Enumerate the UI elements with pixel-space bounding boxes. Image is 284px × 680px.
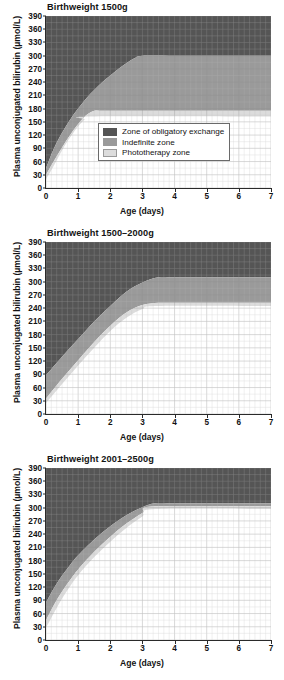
y-tick-mark (43, 494, 47, 495)
y-tick-label: 210 (28, 91, 42, 100)
x-tick-label: 3 (140, 192, 145, 201)
legend-1: Zone of obligatory exchange Indefinite z… (98, 123, 230, 161)
x-tick-label: 6 (237, 192, 242, 201)
y-tick-mark (43, 534, 47, 535)
y-tick-label: 60 (33, 157, 42, 166)
x-tick-mark (175, 640, 176, 644)
x-tick-mark (271, 640, 272, 644)
y-axis-label-2: Plasma unconjugated bilirubin (µmol/L) (12, 243, 22, 403)
legend-swatch-phototherapy-icon (103, 149, 117, 157)
x-tick-label: 4 (172, 644, 177, 653)
y-tick-label: 330 (28, 38, 42, 47)
x-tick-label: 1 (76, 644, 81, 653)
x-tick-label: 3 (140, 644, 145, 653)
y-tick-label: 30 (33, 396, 42, 405)
x-tick-label: 0 (44, 418, 49, 427)
y-tick-mark (43, 400, 47, 401)
y-tick-label: 240 (28, 530, 42, 539)
zones-svg-1 (46, 16, 271, 188)
legend-label-exchange: Zone of obligatory exchange (122, 127, 224, 136)
y-tick-mark (43, 520, 47, 521)
y-tick-mark (43, 42, 47, 43)
y-tick-mark (43, 268, 47, 269)
y-tick-mark (43, 82, 47, 83)
plot-canvas-2 (46, 242, 271, 414)
y-tick-mark (43, 95, 47, 96)
x-tick-label: 4 (172, 192, 177, 201)
x-tick-label: 0 (44, 192, 49, 201)
x-tick-mark (142, 414, 143, 418)
chart-block-3: Birthweight 2001–2500g Plasma unconjugat… (0, 452, 284, 678)
y-tick-mark (43, 148, 47, 149)
y-tick-mark (43, 294, 47, 295)
plot-canvas-3 (46, 468, 271, 640)
y-tick-label: 120 (28, 357, 42, 366)
y-tick-mark (43, 361, 47, 362)
y-tick-label: 210 (28, 317, 42, 326)
y-tick-mark (43, 468, 47, 469)
y-tick-label: 150 (28, 343, 42, 352)
y-tick-mark (43, 507, 47, 508)
y-tick-label: 210 (28, 543, 42, 552)
x-tick-mark (110, 188, 111, 192)
y-tick-label: 150 (28, 117, 42, 126)
y-tick-mark (43, 334, 47, 335)
y-tick-mark (43, 16, 47, 17)
y-axis-label-1: Plasma unconjugated bilirubin (µmol/L) (12, 17, 22, 177)
y-tick-label: 0 (37, 184, 42, 193)
y-tick-label: 60 (33, 383, 42, 392)
y-tick-mark (43, 626, 47, 627)
y-tick-label: 300 (28, 277, 42, 286)
y-tick-mark (43, 573, 47, 574)
legend-label-indefinite: Indefinite zone (122, 138, 175, 147)
x-tick-label: 6 (237, 418, 242, 427)
y-tick-label: 0 (37, 636, 42, 645)
y-tick-mark (43, 640, 47, 641)
legend-row-exchange: Zone of obligatory exchange (103, 127, 224, 136)
y-tick-mark (43, 161, 47, 162)
y-tick-label: 390 (28, 12, 42, 21)
y-tick-label: 330 (28, 264, 42, 273)
zones-svg-3 (46, 468, 271, 640)
y-tick-label: 150 (28, 569, 42, 578)
x-tick-mark (271, 188, 272, 192)
y-tick-label: 90 (33, 596, 42, 605)
x-tick-label: 5 (204, 418, 209, 427)
y-tick-label: 360 (28, 251, 42, 260)
x-axis-label-2: Age (days) (0, 432, 284, 442)
x-tick-label: 7 (269, 644, 274, 653)
zones-svg-2 (46, 242, 271, 414)
y-tick-mark (43, 308, 47, 309)
plot-area-3: 0306090120150180210240270300330360390012… (46, 468, 271, 640)
x-tick-mark (239, 188, 240, 192)
x-tick-label: 2 (108, 418, 113, 427)
y-tick-label: 180 (28, 104, 42, 113)
chart-block-2: Birthweight 1500–2000g Plasma unconjugat… (0, 226, 284, 452)
y-tick-mark (43, 547, 47, 548)
y-tick-mark (43, 600, 47, 601)
y-tick-label: 90 (33, 144, 42, 153)
y-tick-label: 180 (28, 330, 42, 339)
legend-swatch-exchange-icon (103, 128, 117, 136)
y-tick-label: 300 (28, 503, 42, 512)
x-tick-label: 0 (44, 644, 49, 653)
y-tick-mark (43, 242, 47, 243)
x-tick-mark (239, 414, 240, 418)
y-tick-label: 120 (28, 131, 42, 140)
x-tick-mark (207, 188, 208, 192)
y-tick-mark (43, 255, 47, 256)
chart-block-1: Birthweight 1500g Plasma unconjugated bi… (0, 0, 284, 226)
x-tick-label: 5 (204, 644, 209, 653)
y-tick-mark (43, 613, 47, 614)
x-tick-label: 2 (108, 644, 113, 653)
y-tick-label: 90 (33, 370, 42, 379)
y-tick-mark (43, 188, 47, 189)
y-tick-mark (43, 29, 47, 30)
plot-area-1: Zone of obligatory exchange Indefinite z… (46, 16, 271, 188)
y-tick-mark (43, 374, 47, 375)
y-tick-mark (43, 481, 47, 482)
y-tick-label: 360 (28, 477, 42, 486)
plot-area-2: 0306090120150180210240270300330360390012… (46, 242, 271, 414)
legend-label-phototherapy: Phototherapy zone (122, 148, 190, 157)
y-tick-mark (43, 55, 47, 56)
